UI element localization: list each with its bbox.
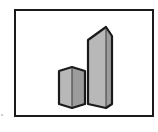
pictogram-canvas — [0, 0, 158, 132]
bar-chart-icon — [0, 0, 158, 132]
short-bar-left-face — [59, 67, 72, 108]
short-bar — [59, 67, 85, 108]
tall-bar-front-face — [88, 28, 106, 108]
tall-bar — [88, 27, 112, 108]
short-bar-right-face — [72, 67, 85, 108]
